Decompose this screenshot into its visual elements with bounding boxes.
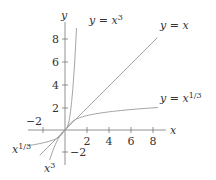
x-tick-label-6: 6 xyxy=(128,135,135,148)
axes xyxy=(28,22,166,165)
x-tick-label-4: 4 xyxy=(106,135,113,148)
curve-x-cubed-path xyxy=(50,28,77,160)
x-tick-label--2: −2 xyxy=(26,115,42,128)
curve-labels: y = x3 y = x y = x1/3 x1/3 x3 xyxy=(12,13,202,175)
x-axis-label: x xyxy=(170,124,177,137)
y-axis-label: y xyxy=(60,9,68,22)
x-tick-label-8: 8 xyxy=(150,135,157,148)
tick-labels: −2 2 4 6 8 −2 2 4 6 8 xyxy=(26,33,157,159)
label-y-equals-cube-root: y = x1/3 xyxy=(159,91,202,105)
label-x-cubed-neg: x3 xyxy=(44,161,55,175)
label-cube-root-neg: x1/3 xyxy=(12,142,31,156)
y-tick-label-8: 8 xyxy=(52,33,59,46)
curve-cube-root xyxy=(27,108,158,146)
curves xyxy=(27,28,158,160)
y-tick-label--2: −2 xyxy=(70,146,86,159)
label-y-equals-x: y = x xyxy=(159,19,189,32)
y-tick-label-6: 6 xyxy=(52,56,59,69)
function-plot: −2 2 4 6 8 −2 2 4 6 8 x y y = x3 y = x y… xyxy=(0,0,216,180)
y-tick-label-4: 4 xyxy=(52,79,59,92)
y-tick-label-2: 2 xyxy=(52,102,59,115)
label-y-equals-x-cubed: y = x3 xyxy=(88,13,123,27)
